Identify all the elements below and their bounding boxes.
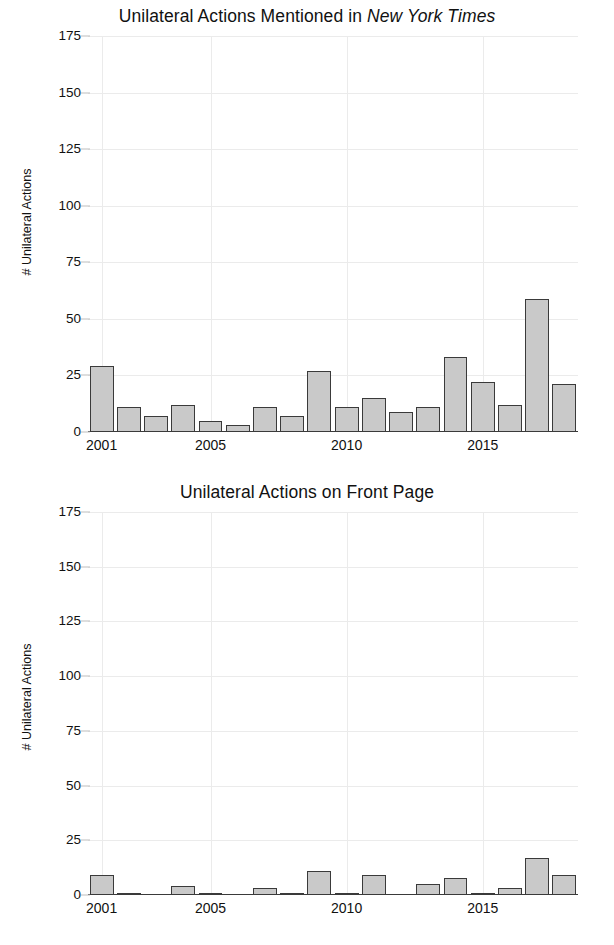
x-tick-label: 2001	[86, 438, 117, 452]
bar-2016	[498, 888, 522, 895]
y-tick-mark	[81, 621, 90, 622]
chart-title-top-italic: New York Times	[367, 6, 495, 26]
figure-container: Unilateral Actions Mentioned in New York…	[0, 0, 614, 945]
bar-2011	[362, 398, 386, 432]
y-tick-mark	[81, 512, 90, 513]
gridline-horizontal	[88, 676, 578, 677]
bar-2012	[389, 412, 413, 432]
y-tick-label: 175	[58, 505, 81, 519]
bar-2009	[307, 371, 331, 432]
y-tick-label: 100	[58, 199, 81, 213]
y-tick-label: 175	[58, 29, 81, 43]
bar-2015	[471, 382, 495, 432]
bar-2012	[389, 894, 413, 895]
y-tick-label: 75	[66, 724, 81, 738]
bar-2014	[444, 878, 468, 896]
chart-title-top-plain: Unilateral Actions Mentioned in	[119, 6, 367, 26]
bar-2003	[144, 894, 168, 895]
bar-2007	[253, 888, 277, 895]
gridline-horizontal	[88, 149, 578, 150]
bar-2011	[362, 875, 386, 895]
y-tick-label: 50	[66, 312, 81, 326]
y-axis-label-bottom: # Unilateral Actions	[20, 617, 34, 777]
bar-2015	[471, 893, 495, 895]
gridline-vertical	[102, 512, 103, 895]
bar-2003	[144, 416, 168, 432]
y-tick-mark	[81, 36, 90, 37]
gridline-vertical	[347, 36, 348, 432]
bar-2005	[199, 893, 223, 895]
gridline-horizontal	[88, 731, 578, 732]
y-tick-mark	[81, 730, 90, 731]
y-tick-label: 75	[66, 256, 81, 270]
x-tick-label: 2001	[86, 901, 117, 915]
y-tick-label: 0	[73, 425, 81, 439]
y-tick-label: 125	[58, 615, 81, 629]
y-tick-label: 25	[66, 834, 81, 848]
bar-2018	[552, 384, 576, 432]
plot-area-bottom: 02550751001251501752001200520102015	[88, 512, 578, 895]
gridline-horizontal	[88, 319, 578, 320]
gridline-horizontal	[88, 93, 578, 94]
bar-2013	[416, 884, 440, 895]
plot-area-top: 02550751001251501752001200520102015	[88, 36, 578, 432]
gridline-vertical	[483, 36, 484, 432]
bar-2001	[90, 366, 114, 432]
chart-panel-front-page: Unilateral Actions on Front Page # Unila…	[0, 472, 614, 945]
gridline-horizontal	[88, 206, 578, 207]
bar-2017	[525, 858, 549, 895]
y-tick-mark	[81, 149, 90, 150]
gridline-horizontal	[88, 840, 578, 841]
chart-title-bottom: Unilateral Actions on Front Page	[0, 482, 614, 503]
x-tick-label: 2005	[195, 901, 226, 915]
y-axis-label-top: # Unilateral Actions	[20, 142, 34, 302]
x-tick-label: 2005	[195, 438, 226, 452]
y-tick-mark	[81, 262, 90, 263]
y-tick-mark	[81, 785, 90, 786]
bar-2004	[171, 886, 195, 895]
bar-2002	[117, 407, 141, 432]
x-tick-label: 2010	[331, 901, 362, 915]
bar-2008	[280, 416, 304, 432]
gridline-horizontal	[88, 36, 578, 37]
chart-title-top: Unilateral Actions Mentioned in New York…	[0, 6, 614, 27]
bar-2001	[90, 875, 114, 895]
x-tick-label: 2015	[467, 901, 498, 915]
y-tick-label: 50	[66, 779, 81, 793]
gridline-horizontal	[88, 567, 578, 568]
bar-2010	[335, 407, 359, 432]
gridline-horizontal	[88, 262, 578, 263]
y-tick-mark	[81, 566, 90, 567]
y-tick-label: 0	[73, 888, 81, 902]
x-tick-label: 2010	[331, 438, 362, 452]
gridline-vertical	[483, 512, 484, 895]
gridline-horizontal	[88, 375, 578, 376]
bar-2018	[552, 875, 576, 895]
y-tick-mark	[81, 92, 90, 93]
y-tick-mark	[81, 840, 90, 841]
bar-2008	[280, 893, 304, 895]
y-tick-mark	[81, 676, 90, 677]
bar-2006	[226, 894, 250, 895]
gridline-horizontal	[88, 512, 578, 513]
bar-2014	[444, 357, 468, 432]
bar-2006	[226, 425, 250, 432]
chart-title-bottom-plain: Unilateral Actions on Front Page	[180, 482, 434, 502]
y-tick-label: 150	[58, 86, 81, 100]
y-tick-mark	[81, 205, 90, 206]
chart-panel-nyt-mentions: Unilateral Actions Mentioned in New York…	[0, 0, 614, 470]
bar-2002	[117, 893, 141, 895]
y-tick-mark	[81, 318, 90, 319]
x-tick-label: 2015	[467, 438, 498, 452]
bar-2016	[498, 405, 522, 432]
bar-2007	[253, 407, 277, 432]
bar-2017	[525, 299, 549, 433]
y-tick-label: 100	[58, 669, 81, 683]
gridline-vertical	[347, 512, 348, 895]
bar-2013	[416, 407, 440, 432]
bar-2010	[335, 893, 359, 895]
bar-2005	[199, 421, 223, 432]
gridline-vertical	[211, 512, 212, 895]
y-tick-label: 25	[66, 369, 81, 383]
bar-2004	[171, 405, 195, 432]
